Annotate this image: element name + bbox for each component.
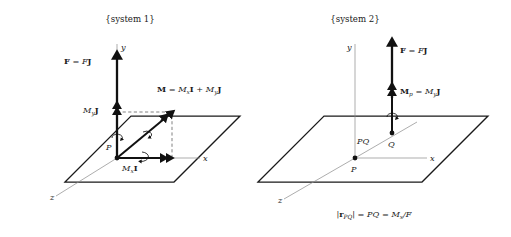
point-p-label-system-2: P	[350, 164, 357, 174]
x-axis-label-system-1: x	[203, 153, 208, 163]
ground-plane-system-2	[258, 116, 488, 182]
moment-y-label-system-1: MyJ	[82, 105, 99, 117]
z-axis-line-system-1	[56, 158, 117, 196]
segment-pq-label-system-2: PQ	[356, 136, 370, 146]
physics-figure: {system 1} z x y F = FJ	[0, 0, 511, 237]
bottom-caption: |rPQ| = PQ = Mx/F	[336, 209, 411, 220]
x-axis-label-system-2: x	[430, 153, 435, 163]
system-1-group: {system 1} z x y F = FJ	[49, 14, 240, 202]
force-label-system-2: F = FJ	[400, 45, 428, 55]
y-axis-label-system-2: y	[346, 42, 352, 52]
system-2-title: {system 2}	[330, 14, 380, 24]
system-1-title: {system 1}	[105, 14, 155, 24]
moment-resultant-label-system-1: M = MxI + MyJ	[157, 84, 221, 96]
moment-x-label-system-1: MxI	[121, 163, 138, 174]
z-axis-label-system-2: z	[277, 195, 283, 205]
point-p-marker-system-1	[115, 156, 120, 161]
z-axis-line-system-2	[284, 158, 355, 199]
figure-canvas: {system 1} z x y F = FJ	[0, 0, 511, 237]
system-2-group: {system 2} z x y F = FJ Mp = MyJ	[258, 14, 488, 220]
force-label-system-1: F = FJ	[64, 56, 92, 66]
y-axis-label-system-1: y	[120, 42, 126, 52]
point-p-label-system-1: P	[105, 142, 112, 152]
z-axis-label-system-1: z	[49, 192, 55, 202]
point-q-marker-system-2	[390, 131, 395, 136]
point-p-marker-system-2	[353, 156, 358, 161]
moment-x-rotation-arc-system-1	[140, 152, 148, 161]
ground-plane-system-1	[65, 116, 240, 182]
moment-p-label-system-2: Mp = MyJ	[400, 86, 441, 98]
point-q-label-system-2: Q	[388, 139, 395, 149]
